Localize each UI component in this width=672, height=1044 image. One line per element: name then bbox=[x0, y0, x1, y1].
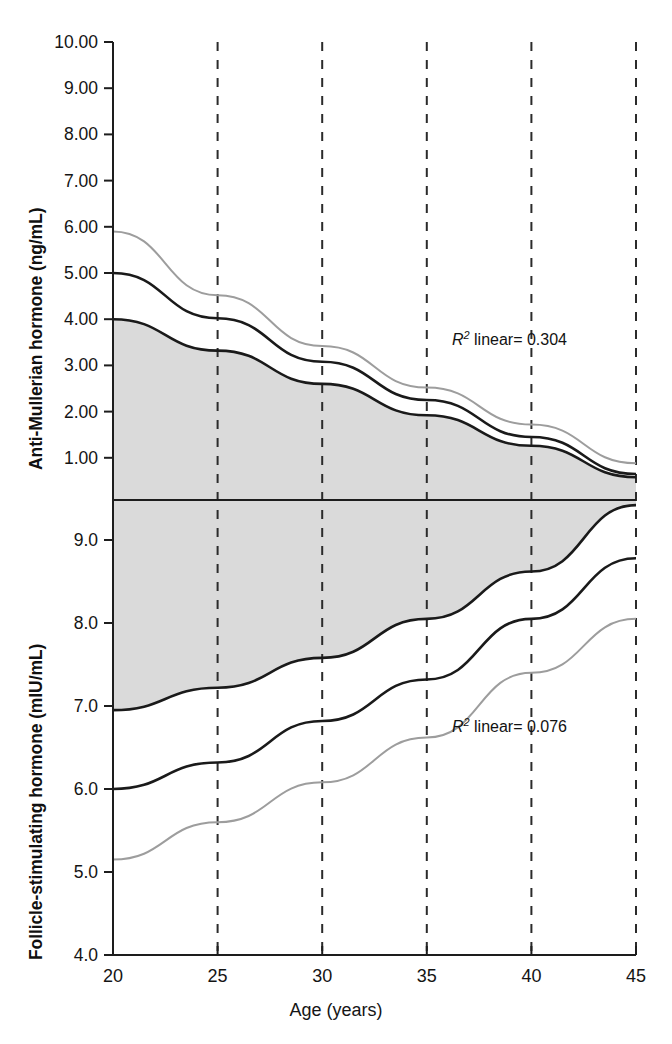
y-tick-label: 5.0 bbox=[74, 862, 99, 882]
lower-y-axis-title: Follicle-stimulating hormone (mIU/mL) bbox=[26, 644, 47, 960]
x-tick-label: 25 bbox=[208, 966, 228, 986]
y-tick-label: 9.00 bbox=[64, 78, 98, 98]
y-tick-label: 6.00 bbox=[64, 217, 98, 237]
y-tick-label: 10.00 bbox=[54, 32, 98, 52]
x-tick-label: 35 bbox=[417, 966, 437, 986]
x-tick-label: 20 bbox=[103, 966, 123, 986]
y-tick-label: 9.0 bbox=[74, 530, 99, 550]
chart-canvas: 10.009.008.007.006.005.004.003.002.001.0… bbox=[0, 0, 672, 1044]
x-tick-label: 45 bbox=[626, 966, 646, 986]
upper-y-tick-labels: 10.009.008.007.006.005.004.003.002.001.0… bbox=[54, 32, 98, 468]
y-tick-label: 4.0 bbox=[74, 945, 99, 965]
r-squared-annotation: R2 linear= 0.304 bbox=[452, 329, 567, 348]
y-tick-label: 7.00 bbox=[64, 171, 98, 191]
y-tick-label: 1.00 bbox=[64, 448, 98, 468]
x-axis-title: Age (years) bbox=[0, 1000, 672, 1021]
y-tick-label: 7.0 bbox=[74, 696, 99, 716]
figure-container: Anti-Mullerian hormone (ng/mL) Follicle-… bbox=[0, 0, 672, 1044]
r-squared-annotation: R2 linear= 0.076 bbox=[452, 716, 567, 735]
y-tick-label: 5.00 bbox=[64, 263, 98, 283]
y-tick-label: 8.0 bbox=[74, 613, 99, 633]
y-tick-label: 4.00 bbox=[64, 309, 98, 329]
y-tick-label: 8.00 bbox=[64, 124, 98, 144]
y-tick-label: 3.00 bbox=[64, 355, 98, 375]
y-tick-label: 2.00 bbox=[64, 402, 98, 422]
x-tick-label: 40 bbox=[521, 966, 541, 986]
x-tick-label: 30 bbox=[312, 966, 332, 986]
lower-y-tick-labels: 9.08.07.06.05.04.0 bbox=[74, 530, 99, 965]
lower-shaded-band bbox=[113, 500, 636, 710]
x-tick-labels: 202530354045 bbox=[103, 966, 646, 986]
upper-y-axis-title: Anti-Mullerian hormone (ng/mL) bbox=[26, 208, 47, 470]
y-tick-label: 6.0 bbox=[74, 779, 99, 799]
